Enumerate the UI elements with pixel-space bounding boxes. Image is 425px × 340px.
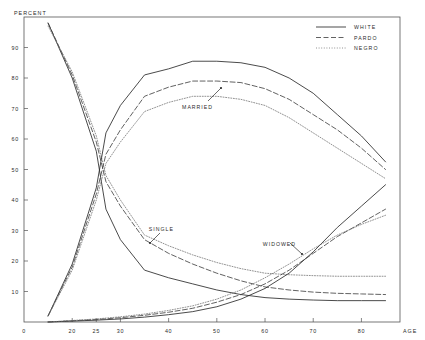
legend-label-negro[interactable]: NEGRO (354, 45, 379, 51)
x-tick-label: 0 (22, 328, 26, 334)
annotation-label-single: SINGLE (149, 226, 174, 232)
annotation-label-married: MARRIED (182, 104, 213, 110)
y-tick-label: 80 (12, 75, 19, 81)
y-tick-label: 50 (12, 167, 19, 173)
legend-label-white[interactable]: WHITE (354, 24, 376, 30)
legend-label-pardo[interactable]: PARDO (354, 35, 378, 41)
x-tick-label: 25 (93, 328, 100, 334)
x-tick-label: 70 (310, 328, 317, 334)
y-axis-label: PERCENT (14, 10, 47, 16)
annotation-arrow-head (149, 242, 151, 244)
y-tick-label: 30 (12, 228, 19, 234)
y-tick-label: 90 (12, 45, 19, 51)
x-tick-label: 80 (358, 328, 365, 334)
chart-legend[interactable]: WHITEPARDONEGRO (316, 24, 379, 51)
y-tick-label: 40 (12, 197, 19, 203)
chart-container: PERCENT 102030405060708090 0202530405060… (0, 0, 425, 340)
y-tick-label: 20 (12, 258, 19, 264)
series-line-single-white (48, 23, 385, 301)
series-line-married-white (48, 61, 385, 316)
series-line-widowed-pardo (48, 209, 385, 322)
annotation-leader-line (208, 88, 221, 101)
annotation-arrow-head (301, 253, 303, 255)
series-line-widowed-negro (48, 215, 385, 322)
series-line-single-pardo (48, 23, 385, 294)
series-lines (48, 23, 385, 322)
y-axis-ticks: 102030405060708090 (12, 45, 28, 295)
x-axis-label: AGE (403, 328, 417, 334)
x-tick-label: 20 (69, 328, 76, 334)
x-tick-label: 30 (117, 328, 124, 334)
annotation-arrow-head (220, 87, 222, 89)
series-line-married-pardo (48, 81, 385, 316)
x-tick-label: 60 (261, 328, 268, 334)
y-tick-label: 60 (12, 136, 19, 142)
y-tick-label: 70 (12, 106, 19, 112)
y-tick-label: 10 (12, 289, 19, 295)
series-line-married-negro (48, 96, 385, 316)
x-tick-label: 40 (165, 328, 172, 334)
series-line-widowed-white (48, 185, 385, 322)
chart-annotations: MARRIEDSINGLEWIDOWED (149, 87, 303, 255)
x-tick-label: 50 (213, 328, 220, 334)
marital-status-by-age-line-chart: PERCENT 102030405060708090 0202530405060… (0, 0, 425, 340)
